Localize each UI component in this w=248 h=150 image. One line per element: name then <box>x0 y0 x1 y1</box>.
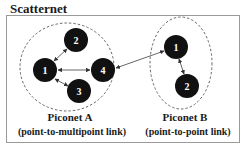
link-b1-b2 <box>179 59 184 74</box>
svg-text:3: 3 <box>77 86 82 97</box>
svg-text:1: 1 <box>43 65 48 76</box>
node-b2: 2 <box>175 74 199 98</box>
bridge-link-a4-b1 <box>116 51 164 68</box>
piconet-b-subtitle: (point-to-point link) <box>136 126 240 137</box>
svg-text:1: 1 <box>174 42 179 53</box>
svg-text:2: 2 <box>74 35 79 46</box>
svg-text:2: 2 <box>185 81 190 92</box>
node-b1: 1 <box>164 35 188 59</box>
link-a1-a2 <box>54 49 67 61</box>
svg-text:4: 4 <box>101 65 106 76</box>
node-a3: 3 <box>67 79 91 103</box>
link-a1-a3 <box>55 79 68 86</box>
piconet-a-name: Piconet A <box>20 111 120 123</box>
piconet-b-name: Piconet B <box>140 111 230 123</box>
node-a4: 4 <box>91 58 115 82</box>
node-a2: 2 <box>64 28 88 52</box>
node-a1: 1 <box>33 58 57 82</box>
piconet-a-subtitle: (point-to-multipoint link) <box>8 126 136 137</box>
